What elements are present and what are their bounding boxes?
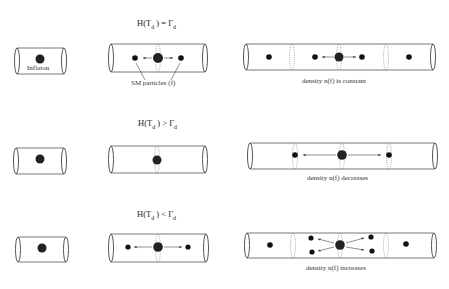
row-3-caption: density n(f) increases	[306, 264, 366, 272]
inflaton-label: Inflaton	[27, 64, 49, 72]
condition-lhs: H(T	[137, 18, 151, 28]
condition-lhs: H(T	[137, 209, 151, 219]
condition-lhs: H(T	[138, 118, 152, 128]
row-3-middle-tube	[109, 234, 209, 262]
diagram-canvas	[0, 0, 449, 289]
condition-subscript: d	[173, 24, 176, 30]
row-2-right-tube	[248, 143, 438, 169]
condition-operator: ) =	[154, 18, 168, 28]
row-2-middle-tube	[109, 146, 208, 173]
row-2-left-tube	[14, 148, 67, 174]
row-2-condition: H(Td ) > Γd	[138, 118, 177, 130]
row-1-caption: density n(f) is constant	[302, 77, 366, 85]
row-1-condition: H(Td ) = Γd	[137, 18, 176, 30]
condition-subscript: d	[173, 215, 176, 221]
row-3-condition: H(Td ) < Γd	[137, 209, 176, 221]
inflaton-particle	[36, 55, 45, 64]
row-3-left-tube	[16, 237, 69, 262]
row-2-caption: density n(f) decreases	[307, 174, 368, 182]
sm-particles-label: SM particles (f)	[131, 79, 175, 87]
condition-subscript: d	[174, 124, 177, 130]
condition-operator: ) <	[154, 209, 168, 219]
condition-operator: ) >	[155, 118, 169, 128]
row-1-middle-tube	[109, 44, 208, 80]
row-3-right-tube	[245, 233, 437, 258]
row-1-right-tube	[244, 44, 436, 70]
